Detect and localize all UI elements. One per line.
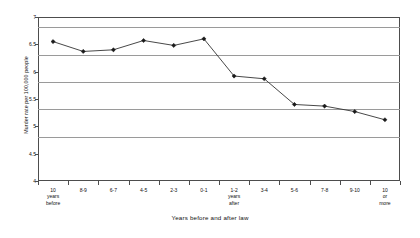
- data-point-marker: [81, 49, 85, 53]
- x-tick-mark: [310, 181, 311, 185]
- data-point-marker: [172, 43, 176, 47]
- y-tick-label: 4: [6, 178, 36, 184]
- x-tick-mark: [38, 181, 39, 185]
- x-tick-mark: [68, 181, 69, 185]
- y-tick-label: 6.5: [6, 41, 36, 47]
- y-tick-label: 6: [6, 69, 36, 75]
- y-tick-label: 5: [6, 123, 36, 129]
- chart-container: Murder rate per 100,000 people 44.555.56…: [0, 0, 420, 238]
- x-tick-mark: [159, 181, 160, 185]
- y-tick-label: 4.5: [6, 151, 36, 157]
- x-tick-mark: [189, 181, 190, 185]
- x-tick-mark: [400, 181, 401, 185]
- x-tick-mark: [98, 181, 99, 185]
- x-axis-title: Years before and after law: [0, 214, 420, 221]
- data-point-marker: [383, 118, 387, 122]
- x-tick-mark: [279, 181, 280, 185]
- y-tick-label: 7: [6, 14, 36, 20]
- data-point-marker: [111, 48, 115, 52]
- y-tick-label: 5.5: [6, 96, 36, 102]
- x-tick-label: 10ormore: [365, 187, 405, 206]
- x-tick-mark: [340, 181, 341, 185]
- x-tick-mark: [219, 181, 220, 185]
- data-point-marker: [51, 40, 55, 44]
- data-point-marker: [322, 104, 326, 108]
- x-tick-mark: [249, 181, 250, 185]
- series-line: [53, 39, 385, 120]
- x-tick-mark: [129, 181, 130, 185]
- x-tick-label-line: after: [214, 200, 254, 206]
- data-point-marker: [353, 109, 357, 113]
- data-point-marker: [141, 38, 145, 42]
- x-tick-mark: [370, 181, 371, 185]
- x-tick-label-line: before: [33, 200, 73, 206]
- data-series-murder-rate: [38, 17, 400, 181]
- x-tick-label-line: more: [365, 200, 405, 206]
